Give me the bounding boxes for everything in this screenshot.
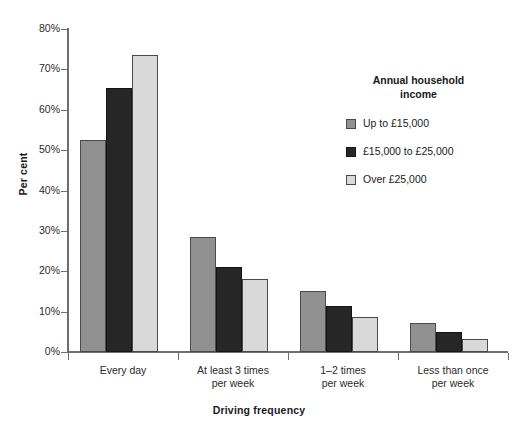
legend-swatch <box>346 119 356 129</box>
x-axis-category-line: At least 3 times <box>178 364 288 377</box>
bar <box>80 140 106 352</box>
y-axis-tick-label: 10% <box>20 306 60 316</box>
y-axis-tick <box>61 271 68 272</box>
legend-title: Annual household income <box>346 74 491 101</box>
bar-chart: Per cent 0%10%20%30%40%50%60%70%80% Ever… <box>0 0 518 431</box>
legend-item: £15,000 to £25,000 <box>346 146 511 157</box>
y-axis-tick <box>61 312 68 313</box>
x-axis-tick <box>508 353 509 360</box>
bar <box>352 317 378 352</box>
x-axis-category-line: per week <box>178 377 288 390</box>
legend-title-line-2: income <box>400 88 437 100</box>
x-axis-category-label: Less than onceper week <box>398 364 508 389</box>
y-axis-tick <box>61 150 68 151</box>
x-axis-category-line: per week <box>398 377 508 390</box>
bar <box>326 306 352 352</box>
x-axis-category-label: 1–2 timesper week <box>288 364 398 389</box>
x-axis-tick <box>178 353 179 360</box>
bar <box>410 323 436 352</box>
legend-swatch <box>346 147 356 157</box>
y-axis-tick-label: 20% <box>20 265 60 275</box>
y-axis-tick <box>61 29 68 30</box>
y-axis-tick <box>61 110 68 111</box>
legend-item: Over £25,000 <box>346 174 511 185</box>
legend-title-line-1: Annual household <box>373 74 465 86</box>
x-axis-title: Driving frequency <box>0 404 518 416</box>
legend: Annual household income Up to £15,000£15… <box>346 74 511 202</box>
bar <box>436 332 462 352</box>
legend-item: Up to £15,000 <box>346 118 511 129</box>
y-axis-tick-label: 40% <box>20 185 60 195</box>
bar <box>462 339 488 352</box>
legend-label: Up to £15,000 <box>363 118 429 129</box>
y-axis-tick <box>61 231 68 232</box>
x-axis-tick <box>68 353 69 360</box>
x-axis-tick <box>288 353 289 360</box>
x-axis-category-line: Every day <box>68 364 178 377</box>
y-axis-tick-label: 70% <box>20 63 60 73</box>
y-axis-tick <box>61 191 68 192</box>
y-axis-labels: 0%10%20%30%40%50%60%70%80% <box>8 0 60 431</box>
x-axis-category-line: per week <box>288 377 398 390</box>
legend-label: £15,000 to £25,000 <box>363 146 454 157</box>
y-axis-tick <box>61 69 68 70</box>
bar <box>216 267 242 352</box>
y-axis-tick-label: 80% <box>20 23 60 33</box>
y-axis-tick <box>61 352 68 353</box>
bar-group <box>178 29 288 352</box>
bar <box>106 88 132 352</box>
bar <box>300 291 326 352</box>
legend-swatch <box>346 175 356 185</box>
legend-label: Over £25,000 <box>363 174 427 185</box>
x-axis-category-label: At least 3 timesper week <box>178 364 288 389</box>
bar-group <box>68 29 178 352</box>
y-axis-tick-label: 60% <box>20 104 60 114</box>
x-axis-category-line: Less than once <box>398 364 508 377</box>
y-axis-tick-label: 30% <box>20 225 60 235</box>
bar <box>132 55 158 352</box>
y-axis-tick-label: 50% <box>20 144 60 154</box>
x-axis-category-line: 1–2 times <box>288 364 398 377</box>
bar <box>190 237 216 352</box>
bar <box>242 279 268 352</box>
x-axis-category-label: Every day <box>68 364 178 377</box>
x-axis-tick <box>398 353 399 360</box>
y-axis-tick-label: 0% <box>20 346 60 356</box>
